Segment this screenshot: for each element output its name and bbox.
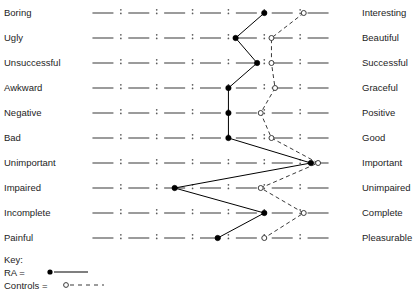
semantic-differential-chart: Boring Ugly Unsuccessful Awkward Negativ…	[0, 0, 419, 297]
legend-marker-ra	[47, 269, 52, 274]
legend-marker-controls	[64, 283, 69, 288]
legend-marker-layer	[0, 0, 419, 297]
